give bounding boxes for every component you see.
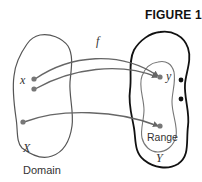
domain-point-2 — [31, 86, 36, 91]
domain-point-x — [31, 76, 36, 81]
element-x-label: x — [19, 73, 26, 87]
range-point-y — [157, 74, 162, 79]
mapping-arrow-2 — [35, 69, 157, 89]
unmapped-point-2 — [179, 97, 184, 102]
domain-set-outline — [13, 35, 72, 158]
function-mapping-diagram: FIGURE 1 x f X Domain y Range Y — [0, 0, 202, 182]
element-y-label: y — [165, 69, 172, 83]
unmapped-point-1 — [179, 78, 184, 83]
set-X-label: X — [22, 141, 31, 155]
mapping-arrow-3 — [24, 113, 158, 126]
domain-point-3 — [20, 119, 25, 124]
figure-title: FIGURE 1 — [145, 8, 202, 22]
domain-caption: Domain — [23, 164, 61, 176]
range-label: Range — [147, 131, 178, 143]
set-Y-label: Y — [156, 151, 164, 165]
function-f-label: f — [96, 34, 101, 48]
range-point-2 — [157, 123, 162, 128]
